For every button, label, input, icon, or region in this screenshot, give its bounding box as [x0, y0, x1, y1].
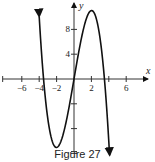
- chart: −6−4−22648xy: [0, 0, 155, 162]
- x-axis-label: x: [145, 65, 151, 76]
- x-tick-label: 6: [124, 83, 129, 93]
- x-tick-label: 2: [89, 83, 94, 93]
- x-tick-label: −4: [34, 83, 44, 93]
- axes: [3, 3, 148, 153]
- x-tick-label: −2: [52, 83, 62, 93]
- y-tick-label: 8: [66, 24, 71, 34]
- y-tick-label: 4: [66, 49, 71, 59]
- y-axis-label: y: [78, 0, 84, 11]
- figure-caption: Figure 27: [0, 148, 155, 160]
- x-tick-label: −6: [17, 83, 27, 93]
